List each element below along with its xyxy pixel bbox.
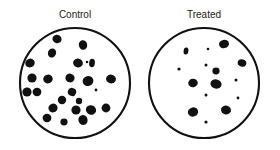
- colony-spot: [76, 98, 82, 104]
- panel-control: Control: [20, 9, 130, 138]
- colony-spot: [204, 120, 207, 123]
- colony-spot: [212, 68, 219, 75]
- colony-spot: [237, 97, 240, 100]
- colony-spot: [207, 48, 210, 51]
- colony-spot: [33, 88, 42, 96]
- colony-spot: [43, 114, 52, 122]
- colony-spot: [22, 87, 31, 96]
- petri-dish-control: [20, 28, 130, 138]
- colony-spot: [235, 79, 238, 82]
- colony-spot: [58, 96, 66, 104]
- colony-spot: [177, 67, 180, 70]
- colony-spot: [205, 64, 208, 67]
- panel-treated: Treated: [149, 9, 259, 138]
- colony-spot: [205, 94, 208, 97]
- colony-spot: [86, 61, 89, 64]
- colony-spot: [102, 104, 111, 113]
- plates-svg: Control Treated: [0, 0, 280, 150]
- plate-label-treated: Treated: [187, 9, 221, 20]
- petri-dish-comparison-figure: Control Treated: [0, 0, 280, 150]
- colony-spot: [71, 105, 80, 114]
- petri-dish-treated: [149, 28, 259, 138]
- colony-spot: [60, 119, 67, 126]
- colony-spot: [95, 89, 98, 92]
- colony-spot: [27, 73, 36, 82]
- plate-label-control: Control: [59, 9, 91, 20]
